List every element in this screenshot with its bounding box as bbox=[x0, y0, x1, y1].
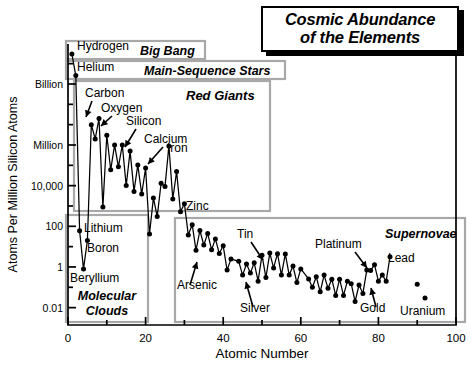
data-point bbox=[384, 279, 389, 284]
callout-carbon: Carbon bbox=[85, 86, 124, 100]
data-point bbox=[279, 273, 284, 278]
callout-hydrogen: Hydrogen bbox=[77, 39, 129, 53]
data-point bbox=[229, 256, 234, 261]
data-point bbox=[89, 122, 94, 127]
data-point bbox=[100, 204, 105, 209]
data-point bbox=[213, 236, 218, 241]
data-point bbox=[423, 295, 428, 300]
callout-iron: Iron bbox=[167, 141, 188, 155]
data-point bbox=[368, 268, 373, 273]
x-axis-title: Atomic Number bbox=[215, 346, 309, 361]
chart-figure: BillionMillion10,00010010.01020406080100… bbox=[0, 0, 476, 370]
data-point bbox=[178, 209, 183, 214]
data-point bbox=[263, 275, 268, 280]
y-tick-label: 0.01 bbox=[43, 302, 64, 314]
data-point bbox=[271, 265, 276, 270]
region-label-molecular-clouds: Molecular bbox=[78, 289, 137, 303]
data-point bbox=[93, 136, 98, 141]
data-point bbox=[205, 231, 210, 236]
data-point bbox=[201, 243, 206, 248]
data-point bbox=[329, 277, 334, 282]
callout-arsenic: Arsenic bbox=[177, 278, 217, 292]
region-label-big-bang: Big Bang bbox=[140, 44, 195, 58]
data-point bbox=[380, 273, 385, 278]
data-point bbox=[294, 280, 299, 285]
data-point bbox=[159, 181, 164, 186]
data-point bbox=[236, 259, 241, 264]
data-point bbox=[139, 192, 144, 197]
x-tick-label: 40 bbox=[217, 332, 230, 344]
data-point bbox=[108, 167, 113, 172]
data-point bbox=[415, 282, 420, 287]
data-point bbox=[275, 251, 280, 256]
data-point bbox=[116, 164, 121, 169]
data-point bbox=[186, 232, 191, 237]
data-point bbox=[143, 166, 148, 171]
y-tick-label: 100 bbox=[45, 220, 63, 232]
data-point bbox=[120, 143, 125, 148]
chart-title-line1: Cosmic Abundance bbox=[285, 11, 435, 29]
data-point bbox=[341, 293, 346, 298]
callout-zinc: Zinc bbox=[186, 199, 209, 213]
data-point bbox=[147, 232, 152, 237]
data-point bbox=[151, 195, 156, 200]
data-point bbox=[97, 116, 102, 121]
data-point bbox=[104, 133, 109, 138]
data-point bbox=[283, 251, 288, 256]
data-point bbox=[77, 228, 82, 233]
data-point bbox=[337, 277, 342, 282]
callout-oxygen: Oxygen bbox=[101, 101, 142, 115]
data-point bbox=[128, 149, 133, 154]
data-point bbox=[248, 271, 253, 276]
region-label-molecular-clouds-line2: Clouds bbox=[86, 304, 128, 318]
callout-gold: Gold bbox=[360, 301, 385, 315]
region-label-red-giants: Red Giants bbox=[186, 88, 255, 103]
data-point bbox=[314, 274, 319, 279]
region-label-supernovae: Supernovae bbox=[385, 227, 457, 241]
callout-boron: Boron bbox=[87, 241, 119, 255]
data-point bbox=[298, 266, 303, 271]
chart-title-box: Cosmic Abundance of the Elements bbox=[261, 6, 459, 52]
data-point bbox=[244, 262, 249, 267]
x-tick-label: 80 bbox=[372, 332, 385, 344]
callout-lead: Lead bbox=[388, 251, 415, 265]
data-point bbox=[240, 273, 245, 278]
y-tick-label: 10,000 bbox=[31, 180, 63, 192]
data-point bbox=[197, 228, 202, 233]
data-point bbox=[252, 260, 257, 265]
callout-lithium: Lithium bbox=[84, 221, 123, 235]
callout-platinum: Platinum bbox=[315, 237, 362, 251]
region-label-main-sequence: Main-Sequence Stars bbox=[144, 64, 270, 78]
y-tick-label: Billion bbox=[35, 78, 63, 90]
data-point bbox=[318, 289, 323, 294]
y-tick-label: 1 bbox=[57, 261, 63, 273]
y-tick-label: Million bbox=[33, 139, 63, 151]
x-tick-label: 60 bbox=[294, 332, 307, 344]
data-point bbox=[225, 268, 230, 273]
data-point bbox=[209, 247, 214, 252]
y-axis-title: Atoms Per Million Silicon Atoms bbox=[6, 97, 20, 273]
data-point bbox=[267, 251, 272, 256]
data-point bbox=[256, 279, 261, 284]
data-point bbox=[360, 291, 365, 296]
x-tick-label: 100 bbox=[446, 332, 465, 344]
callout-beryllium: Beryllium bbox=[70, 271, 119, 285]
data-point bbox=[349, 281, 354, 286]
data-point bbox=[217, 251, 222, 256]
chart-title-line2: of the Elements bbox=[300, 29, 420, 47]
callout-silver: Silver bbox=[240, 301, 270, 315]
callout-helium: Helium bbox=[77, 60, 114, 74]
data-point bbox=[357, 283, 362, 288]
data-point bbox=[333, 293, 338, 298]
data-point bbox=[353, 299, 358, 304]
data-point bbox=[163, 184, 168, 189]
callout-tin: Tin bbox=[237, 227, 253, 241]
data-point bbox=[287, 273, 292, 278]
data-point bbox=[310, 285, 315, 290]
data-point bbox=[194, 248, 199, 253]
data-point bbox=[155, 214, 160, 219]
data-point bbox=[170, 197, 175, 202]
data-point bbox=[174, 169, 179, 174]
data-point bbox=[306, 276, 311, 281]
data-point bbox=[190, 222, 195, 227]
